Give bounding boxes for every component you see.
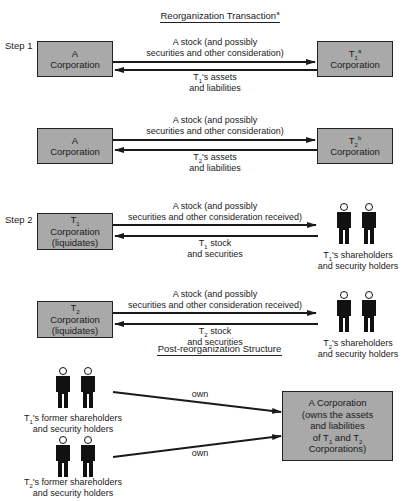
box-line: Corporation xyxy=(330,146,380,158)
shareholders-figure-icon xyxy=(333,291,383,337)
t2-corporation-box: T2b Corporation xyxy=(317,128,393,164)
arrow-label-t2-assets: T2's assets and liabilities xyxy=(113,152,317,174)
reorganization-title: Reorganization Transactiona xyxy=(160,10,280,23)
arrow-label-t1-stock: T1 stock and securities xyxy=(113,238,317,260)
arrow-label-a-stock-received-2: A stock (and possiblysecurities and othe… xyxy=(113,289,317,311)
box-line: T2b xyxy=(349,135,362,147)
arrow-label-a-stock-received-1: A stock (and possiblysecurities and othe… xyxy=(113,201,317,223)
box-line: of T1 and T2 xyxy=(313,432,363,444)
t2-former-shareholders-label: T2's former shareholders and security ho… xyxy=(13,477,133,499)
box-line: T2 xyxy=(70,302,79,314)
box-line: (liquidates) xyxy=(52,325,98,337)
arrow-label-t2-stock: T2 stock and securities xyxy=(113,326,317,348)
box-line: Corporation xyxy=(50,226,100,238)
box-line: A xyxy=(72,48,78,60)
t1-former-shareholders-label: T1's former shareholders and security ho… xyxy=(13,413,133,435)
title-footnote: a xyxy=(276,10,279,16)
box-line: and liabilities xyxy=(310,420,364,432)
box-line: (liquidates) xyxy=(52,237,98,249)
step1-label: Step 1 xyxy=(5,40,32,51)
former-shareholders-figure-icon xyxy=(52,436,102,482)
t1-liquidates-box: T1 Corporation (liquidates) xyxy=(37,213,113,250)
box-line: A xyxy=(72,135,78,147)
step2-label: Step 2 xyxy=(5,214,32,225)
a-corporation-result-box: A Corporation (owns the assets and liabi… xyxy=(282,391,393,461)
t1-shareholders-label: T1's shareholders and security holders xyxy=(310,250,406,272)
box-line: Corporation xyxy=(50,314,100,326)
arrow-label-t1-assets: T1's assets and liabilities xyxy=(113,72,317,94)
box-line: Corporations) xyxy=(309,443,367,455)
box-line: Corporation xyxy=(50,146,100,158)
box-line: Corporation xyxy=(330,59,380,71)
t1-corporation-box: T1a Corporation xyxy=(317,41,393,77)
box-line: T1a xyxy=(349,48,362,60)
box-line: A Corporation xyxy=(308,397,366,409)
box-line: T1 xyxy=(70,214,79,226)
title-text: Reorganization Transaction xyxy=(161,10,277,21)
shareholders-figure-icon xyxy=(333,203,383,249)
box-line: (owns the assets xyxy=(302,409,373,421)
a-corporation-box-1: A Corporation xyxy=(37,41,113,77)
box-line: Corporation xyxy=(50,59,100,71)
own-label-1: own xyxy=(185,389,215,400)
arrow-label-a-stock-2: A stock (and possiblysecurities and othe… xyxy=(113,115,317,137)
a-corporation-box-2: A Corporation xyxy=(37,128,113,164)
t2-shareholders-label: T2's shareholders and security holders xyxy=(310,338,406,360)
t2-liquidates-box: T2 Corporation (liquidates) xyxy=(37,301,113,338)
arrow-label-a-stock-1: A stock (and possiblysecurities and othe… xyxy=(113,37,317,59)
own-label-2: own xyxy=(185,448,215,459)
former-shareholders-figure-icon xyxy=(52,367,102,413)
